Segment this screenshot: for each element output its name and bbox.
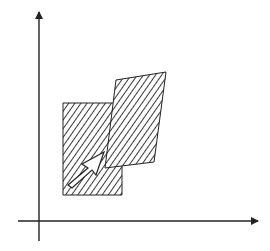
diagram-canvas <box>0 0 270 251</box>
transformation-diagram <box>0 0 270 251</box>
hatched-sheared-parallelogram <box>105 72 166 168</box>
